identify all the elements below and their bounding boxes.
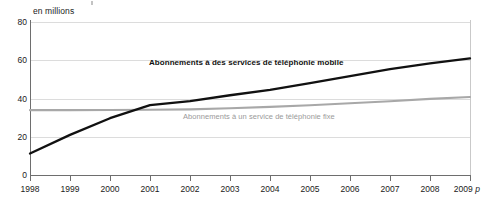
series-lines (0, 0, 484, 199)
series-annotation-mobile: Abonnements à des services de téléphonie… (149, 58, 343, 67)
series-line-fixe (30, 97, 470, 110)
series-line-mobile (30, 58, 470, 153)
chart-figure: en millions 020406080 199819992000200120… (0, 0, 484, 199)
series-annotation-fixe: Abonnements à un service de téléphonie f… (183, 112, 335, 121)
